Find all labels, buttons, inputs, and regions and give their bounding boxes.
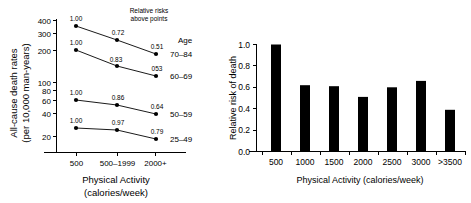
point-label: 0.86 [112, 94, 125, 101]
right-y-tick-label-0-8: 0.8 [238, 61, 250, 71]
bar-500 [271, 45, 281, 152]
right-y-tick-label-0-6: 0.6 [238, 82, 250, 92]
left-x-tick-label-500: 500 [70, 159, 84, 168]
point-label: 1.00 [70, 39, 83, 46]
data-point [154, 137, 158, 141]
bar-2000 [358, 97, 368, 152]
right-x-tick-label-1500: 1500 [325, 157, 344, 167]
left-x-tick-label-500-1999: 500–1999 [100, 159, 136, 168]
series-label-60-69: 60–69 [170, 72, 193, 81]
right-y-tick-label-0-4: 0.4 [238, 104, 250, 114]
legend-title-age: Age [178, 36, 193, 45]
right-x-tick-label-over-3500: >3500 [438, 157, 462, 167]
right-bars [271, 45, 455, 152]
data-point [74, 98, 78, 102]
point-label: 0.51 [151, 43, 164, 50]
left-x-axis-title-line1: Physical Activity [82, 174, 150, 185]
right-x-axis-title: Physical Activity (calories/week) [296, 175, 423, 185]
point-label: 0.97 [112, 119, 125, 126]
right-x-tick-label-3000: 3000 [412, 157, 431, 167]
right-y-axis-title: Relative risk of death [228, 56, 238, 140]
right-x-tick-label-500: 500 [269, 157, 283, 167]
series-label-70-84: 70–84 [170, 50, 193, 59]
data-point [154, 112, 158, 116]
right-x-tick-label-1000: 1000 [296, 157, 315, 167]
point-label: 1.00 [70, 117, 83, 124]
relative-risk-annotation-line2: above points [131, 15, 169, 23]
point-label: 0.72 [112, 29, 125, 36]
left-y-tick-label-80: 80 [42, 87, 51, 96]
data-point [154, 52, 158, 56]
left-chart: 400 300 200 100 80 60 40 20 All-cause de… [8, 7, 193, 198]
data-point [115, 128, 119, 132]
right-y-tick-label-0-0: 0.0 [238, 147, 250, 157]
bar-2500 [387, 87, 397, 151]
series-60-69-line [76, 50, 156, 76]
right-chart: 0.0 0.2 0.4 0.6 0.8 1.0 Relative risk of… [228, 40, 466, 186]
right-y-tick-label-1-0: 1.0 [238, 40, 250, 50]
left-y-tick-label-300: 300 [38, 30, 52, 39]
right-x-tick-label-2500: 2500 [383, 157, 402, 167]
series-50-59: 1.00 0.86 0.64 50–59 [70, 89, 193, 119]
left-x-tick-label-2000plus: 2000+ [144, 159, 167, 168]
right-y-tick-label-0-2: 0.2 [238, 125, 250, 135]
series-label-25-49: 25–49 [170, 135, 193, 144]
data-point [74, 48, 78, 52]
data-point [115, 103, 119, 107]
left-y-tick-label-400: 400 [38, 17, 52, 26]
point-label: 0.64 [151, 103, 164, 110]
series-25-49: 1.00 0.97 0.79 25–49 [70, 117, 193, 144]
left-y-axis-title-line1: All-cause death rates [8, 48, 19, 137]
bar-1500 [329, 86, 339, 151]
left-x-axis-title-line2: (calories/week) [84, 187, 148, 198]
point-label: 0.83 [110, 56, 123, 63]
figure-container: 400 300 200 100 80 60 40 20 All-cause de… [0, 0, 471, 203]
left-y-tick-label-200: 200 [38, 47, 52, 56]
series-label-50-59: 50–59 [170, 110, 193, 119]
data-point [74, 24, 78, 28]
left-y-tick-label-20: 20 [42, 133, 51, 142]
point-label: 1.00 [70, 89, 83, 96]
data-point [154, 74, 158, 78]
bar-over-3500 [445, 110, 455, 152]
data-point [115, 64, 119, 68]
figure-svg: 400 300 200 100 80 60 40 20 All-cause de… [0, 0, 471, 203]
left-y-tick-label-40: 40 [42, 110, 51, 119]
relative-risk-annotation-line1: Relative risks [130, 7, 169, 14]
right-x-tick-label-2000: 2000 [354, 157, 373, 167]
point-label: 0.79 [151, 128, 164, 135]
bar-3000 [416, 81, 426, 152]
point-label: 053 [152, 65, 163, 72]
data-point [115, 38, 119, 42]
bar-1000 [300, 85, 310, 151]
left-y-tick-label-60: 60 [42, 97, 51, 106]
data-point [74, 126, 78, 130]
series-50-59-line [76, 100, 156, 114]
left-y-axis-title-line2: (per 10,000 man-years) [20, 43, 31, 142]
point-label: 1.00 [70, 15, 83, 22]
